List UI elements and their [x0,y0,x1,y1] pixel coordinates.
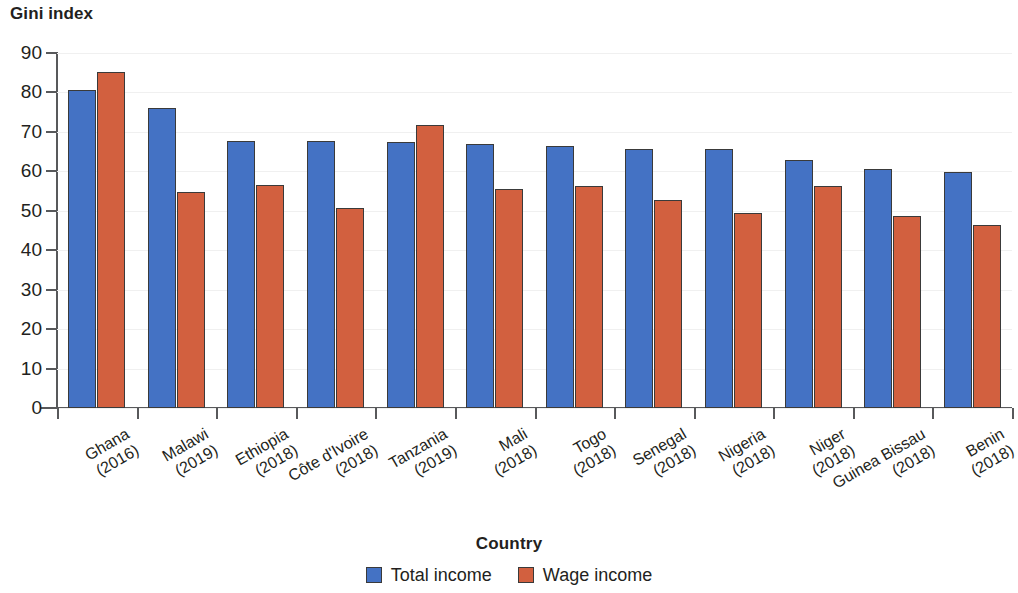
y-tick-label: 50 [2,201,42,220]
bar-total-income [785,160,813,408]
x-tick-mark [535,408,537,419]
legend-item[interactable]: Total income [366,566,492,584]
bar-wage-income [416,125,444,408]
y-tick-mark [46,368,57,370]
bar-wage-income [575,186,603,408]
y-tick-label: 80 [2,82,42,101]
y-tick-mark [46,210,57,212]
x-tick-mark [57,408,59,419]
bar-total-income [387,142,415,408]
bar-total-income [864,169,892,408]
y-tick-mark [46,289,57,291]
bar-wage-income [177,192,205,408]
bar-wage-income [97,72,125,408]
y-tick-label: 30 [2,280,42,299]
bar-wage-income [256,185,284,408]
bars-layer [57,53,1012,408]
bar-wage-income [654,200,682,408]
x-tick-mark [614,408,616,419]
chart-legend: Total incomeWage income [0,566,1018,584]
bar-total-income [148,108,176,408]
bar-total-income [944,172,972,408]
legend-label: Total income [391,566,492,584]
x-tick-mark [1012,408,1014,419]
x-tick-mark [375,408,377,419]
bar-wage-income [893,216,921,408]
y-tick-mark [46,328,57,330]
y-tick-mark [46,249,57,251]
x-tick-mark [853,408,855,419]
bar-wage-income [336,208,364,408]
bar-wage-income [734,213,762,408]
bar-total-income [227,141,255,408]
chart-title: Gini index [10,4,93,24]
legend-item[interactable]: Wage income [518,566,652,584]
legend-label: Wage income [543,566,652,584]
plot-area [57,53,1012,408]
y-tick-label: 20 [2,319,42,338]
y-tick-mark [46,52,57,54]
bar-wage-income [495,189,523,408]
x-tick-mark [932,408,934,419]
bar-total-income [466,144,494,408]
bar-total-income [68,90,96,408]
y-tick-label: 90 [2,43,42,62]
x-tick-mark [773,408,775,419]
y-tick-label: 70 [2,122,42,141]
x-axis-title: Country [0,534,1018,554]
bar-total-income [625,149,653,408]
x-tick-mark [216,408,218,419]
y-tick-mark [46,131,57,133]
legend-swatch-icon [518,567,534,583]
gini-index-bar-chart: Gini index 9080706050403020100 Ghana(201… [0,0,1018,593]
x-tick-mark [694,408,696,419]
x-tick-mark [455,408,457,419]
bar-wage-income [814,186,842,408]
x-tick-mark [137,408,139,419]
bar-total-income [705,149,733,408]
y-tick-mark [46,407,57,409]
y-tick-mark [46,170,57,172]
y-tick-label: 40 [2,240,42,259]
y-tick-label: 60 [2,161,42,180]
bar-wage-income [973,225,1001,408]
bar-total-income [546,146,574,408]
y-tick-label: 10 [2,359,42,378]
bar-total-income [307,141,335,408]
y-tick-label: 0 [2,398,42,417]
y-tick-mark [46,91,57,93]
x-tick-mark [296,408,298,419]
legend-swatch-icon [366,567,382,583]
